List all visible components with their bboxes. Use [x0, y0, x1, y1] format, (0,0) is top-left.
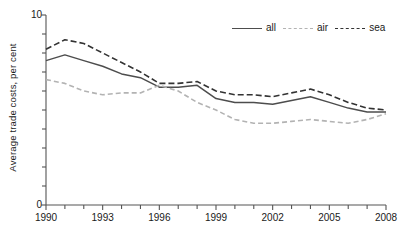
- plot-area: [0, 0, 399, 247]
- series-line-air: [46, 80, 386, 124]
- series-line-sea: [46, 40, 386, 110]
- axis-layer: [41, 15, 386, 210]
- trade-costs-line-chart: Average trade costs, per cent 10 0 19901…: [0, 0, 399, 247]
- series-layer: [46, 40, 386, 124]
- series-line-all: [46, 55, 386, 112]
